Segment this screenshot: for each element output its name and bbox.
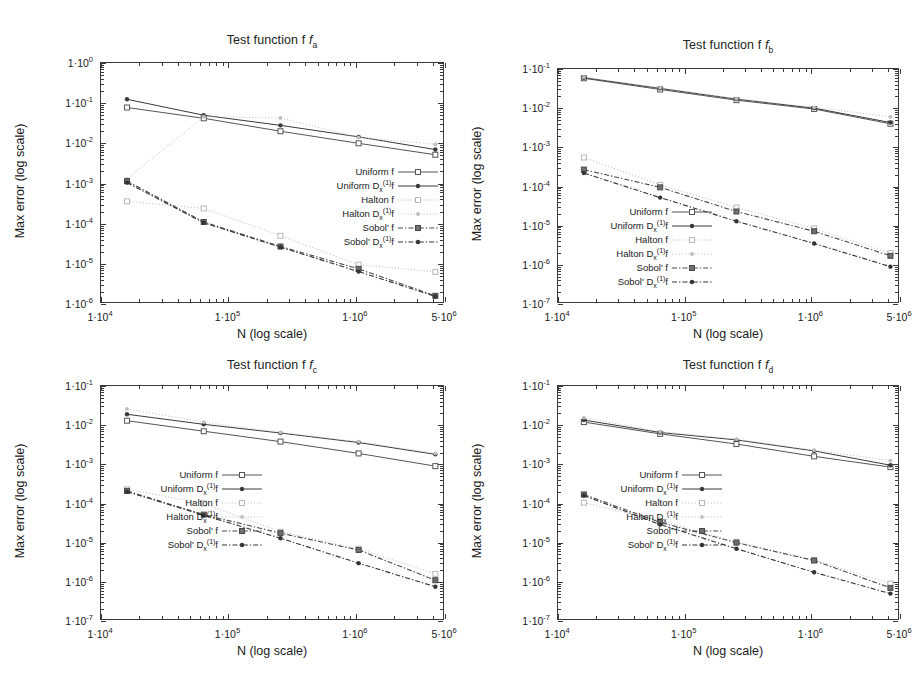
data-point (734, 540, 739, 545)
y-tick-label: 1·10-1 (0, 378, 550, 392)
panel-title-fd: Test function f fd (557, 358, 899, 375)
data-point (812, 448, 816, 452)
data-point (735, 437, 739, 441)
axis-tick (893, 621, 898, 622)
legend-swatch-halton_f (682, 497, 722, 509)
axis-tick (558, 621, 563, 622)
legend-label-uniform_df: Uniform Dx(1)f (621, 482, 678, 496)
legend-label-halton_f: Halton f (645, 498, 678, 508)
legend-swatch-sobol_df (682, 539, 722, 551)
legend-item-sobol_f[interactable]: Sobol' f (572, 524, 722, 538)
legend-swatch-halton_df (682, 511, 722, 523)
panel-fd: Test function f fd1·10-11·10-21·10-31·10… (0, 0, 919, 685)
y-tick-label: 1·10-3 (0, 457, 550, 471)
legend-item-uniform_df[interactable]: Uniform Dx(1)f (572, 482, 722, 496)
data-point (734, 442, 739, 447)
legend-label-sobol_f: Sobol' f (647, 526, 678, 536)
legend-swatch-uniform_df (682, 483, 722, 495)
legend-swatch-uniform_f (682, 469, 722, 481)
data-point (812, 558, 817, 563)
legend-label-uniform_f: Uniform f (639, 470, 678, 480)
data-point (888, 585, 893, 590)
figure-four-panel-convergence-plots: Test function f fa1·1001·10-11·10-21·10-… (0, 0, 919, 685)
series-halton_df (582, 416, 892, 463)
x-tick-label: 5·106 (886, 626, 911, 640)
x-tick-label: 1·104 (544, 626, 569, 640)
y-axis-title: Max error (log scale) (470, 431, 484, 571)
y-tick-label: 1·10-6 (0, 574, 550, 588)
y-tick-label: 1·10-5 (0, 535, 550, 549)
y-tick-label: 1·10-2 (0, 417, 550, 431)
data-point (582, 416, 586, 420)
legend-item-uniform_f[interactable]: Uniform f (572, 468, 722, 482)
x-tick-label: 1·106 (798, 626, 823, 640)
data-point (888, 463, 892, 467)
legend-label-halton_df: Halton Dx(1)f (626, 510, 678, 524)
data-point (889, 459, 893, 463)
legend-fd: Uniform fUniform Dx(1)fHalton fHalton Dx… (572, 468, 722, 552)
legend-item-sobol_df[interactable]: Sobol' Dx(1)f (572, 538, 722, 552)
y-tick-label: 1·10-7 (0, 613, 550, 627)
legend-label-sobol_df: Sobol' Dx(1)f (628, 538, 678, 552)
legend-item-halton_f[interactable]: Halton f (572, 496, 722, 510)
data-point (888, 591, 892, 595)
x-tick-label: 1·105 (671, 626, 696, 640)
axis-tick (900, 614, 901, 619)
axis-tick (900, 386, 901, 391)
data-point (812, 570, 816, 574)
data-point (812, 454, 817, 459)
legend-swatch-sobol_f (682, 525, 722, 537)
data-point (658, 430, 662, 434)
data-point (734, 547, 738, 551)
legend-item-halton_df[interactable]: Halton Dx(1)f (572, 510, 722, 524)
y-tick-label: 1·10-4 (0, 496, 550, 510)
x-axis-title: N (log scale) (557, 644, 899, 658)
